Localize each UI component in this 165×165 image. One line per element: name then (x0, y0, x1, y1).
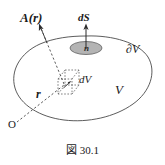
label-boundary: ∂V (126, 43, 139, 55)
label-volume: V (115, 83, 123, 96)
label-vector-field: A(r) (20, 11, 42, 24)
figure-caption: 図 30.1 (0, 141, 165, 157)
label-volume-element: dV (79, 74, 91, 85)
label-normal: n (84, 44, 89, 53)
label-position-vector: r (36, 88, 41, 100)
label-origin: O (8, 119, 16, 130)
figure-30-1: A(r) dS n dV r ∂V V O 図 30.1 (0, 0, 165, 165)
vector-field-leader-arrow (39, 24, 64, 85)
label-surface-element: dS (78, 12, 90, 23)
